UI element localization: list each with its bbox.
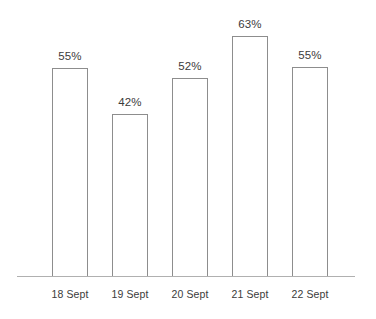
bar-chart: 55% 42% 52% 63% 55% 18 Sept 19 Sept 20 S… [0, 0, 376, 319]
bar-20-sept[interactable] [172, 78, 208, 277]
bar-value-label: 52% [172, 60, 208, 72]
bar-18-sept[interactable] [52, 68, 88, 277]
bar-19-sept[interactable] [112, 114, 148, 277]
x-tick-label-19-sept: 19 Sept [100, 288, 160, 300]
bar-value-label: 63% [232, 18, 268, 30]
x-tick-label-20-sept: 20 Sept [160, 288, 220, 300]
x-tick-label-18-sept: 18 Sept [40, 288, 100, 300]
bar-value-label: 42% [112, 96, 148, 108]
x-tick-label-21-sept: 21 Sept [220, 288, 280, 300]
bar-value-label: 55% [52, 50, 88, 62]
x-axis-line [17, 276, 355, 277]
bar-21-sept[interactable] [232, 36, 268, 277]
x-tick-label-22-sept: 22 Sept [280, 288, 340, 300]
bar-22-sept[interactable] [292, 67, 328, 277]
plot-area: 55% 42% 52% 63% 55% 18 Sept 19 Sept 20 S… [0, 0, 376, 319]
bar-value-label: 55% [292, 49, 328, 61]
